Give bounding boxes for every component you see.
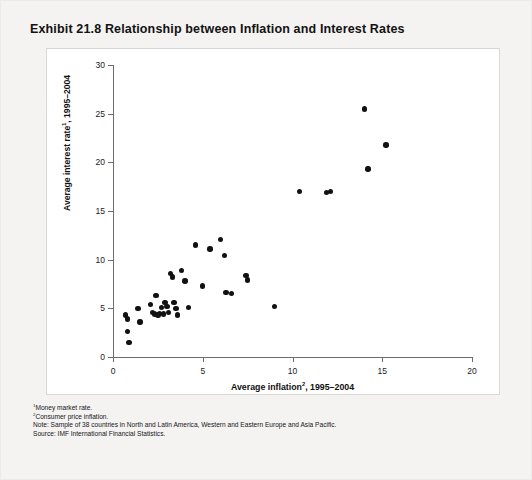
footnote-line: 1Money market rate. [33,404,336,413]
scatter-point [125,316,130,321]
x-axis-tick-label: 5 [200,366,205,376]
footnote-text: Note: Sample of 38 countries in North an… [33,421,336,428]
scatter-point [272,304,277,309]
x-axis-tick [293,357,294,362]
x-axis-tick-label: 10 [288,366,297,376]
x-axis-tick-label: 20 [467,366,476,376]
scatter-point [218,237,223,242]
scatter-point [173,306,178,311]
y-axis-tick [108,114,113,115]
scatter-point [245,277,250,282]
y-axis-tick-label: 5 [100,303,105,313]
x-axis-tick [472,357,473,362]
footnote-text: Consumer price inflation. [35,413,108,420]
footnote-text: Source: IMF International Financial Stat… [33,430,165,437]
scatter-point [164,304,169,309]
x-axis-label: Average inflation2, 1995–2004 [113,382,472,392]
scatter-point [175,312,180,317]
x-axis-tick [203,357,204,362]
y-axis-tick [108,308,113,309]
scatter-point [137,319,142,324]
scatter-point [297,189,302,194]
scatter-point [171,300,176,305]
x-axis-label-suffix: , 1995–2004 [305,382,354,392]
y-axis-tick-label: 10 [96,255,105,265]
y-axis-tick-label: 20 [96,157,105,167]
scatter-point [126,340,131,345]
y-axis-tick [108,65,113,66]
y-axis-tick-label: 15 [96,206,105,216]
x-axis-label-prefix: Average inflation [231,382,302,392]
exhibit-figure: Exhibit 21.8 Relationship between Inflat… [0,0,532,480]
page-title: Exhibit 21.8 Relationship between Inflat… [30,22,405,36]
scatter-point [207,246,212,251]
x-axis-tick-label: 15 [378,366,387,376]
scatter-point [170,274,175,279]
footnote-line: Note: Sample of 38 countries in North an… [33,421,336,430]
scatter-point [179,268,184,273]
scatter-point [365,166,370,171]
footnotes: 1Money market rate.2Consumer price infla… [33,404,336,438]
scatter-point [229,291,234,296]
y-axis-label-prefix: Average interest rate [62,126,72,211]
y-axis-tick [108,211,113,212]
scatter-point [222,253,227,258]
scatter-point [383,142,388,147]
y-axis-label-superscript: 1 [61,123,67,126]
scatter-point [186,305,191,310]
y-axis-tick [108,162,113,163]
x-axis-tick [113,357,114,362]
scatter-point [135,306,140,311]
scatter-point [148,302,153,307]
scatter-point [223,290,228,295]
footnote-line: Source: IMF International Financial Stat… [33,430,336,439]
scatter-point [125,329,130,334]
y-axis-tick-label: 25 [96,109,105,119]
scatter-point [193,242,198,247]
scatter-point [362,106,367,111]
footnote-line: 2Consumer price inflation. [33,413,336,422]
y-axis-line [113,65,114,357]
y-axis-tick-label: 30 [96,60,105,70]
x-axis-tick-label: 0 [111,366,116,376]
y-axis-label: Average interest rate1, 1995–2004 [62,75,72,211]
y-axis-label-suffix: , 1995–2004 [62,75,72,123]
scatter-point [166,310,171,315]
x-axis-tick [382,357,383,362]
scatter-point [153,293,158,298]
scatter-point [328,189,333,194]
y-axis-tick [108,260,113,261]
scatter-plot: 051015202530 05101520 [113,65,472,357]
footnote-text: Money market rate. [35,404,92,411]
scatter-point [200,283,205,288]
scatter-point [182,278,187,283]
y-axis-tick-label: 0 [100,352,105,362]
